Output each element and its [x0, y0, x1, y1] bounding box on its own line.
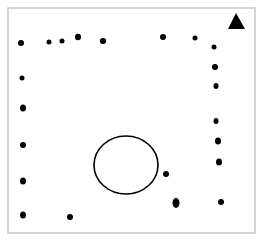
dot-marker — [20, 105, 26, 112]
dot-marker — [18, 40, 24, 46]
dot-marker — [20, 142, 26, 148]
triangle-marker — [228, 13, 245, 29]
dot-marker — [212, 64, 218, 70]
dot-marker — [214, 118, 219, 124]
dot-marker — [20, 178, 26, 185]
dot-marker — [20, 212, 26, 219]
circle-shape — [94, 136, 158, 194]
dot-marker — [212, 45, 217, 50]
dot-marker — [173, 198, 180, 208]
dot-marker — [20, 76, 25, 81]
dot-marker — [60, 39, 65, 44]
dot-marker — [163, 171, 169, 177]
dot-marker — [193, 36, 198, 41]
dot-marker — [75, 34, 81, 40]
dot-marker — [100, 38, 106, 44]
dot-marker — [67, 214, 73, 220]
dot-marker — [216, 159, 222, 166]
dots-group — [18, 34, 224, 220]
dot-marker — [215, 138, 221, 145]
dot-marker — [160, 34, 166, 40]
dot-marker — [214, 83, 219, 89]
dot-marker — [218, 199, 224, 205]
dot-marker — [47, 40, 52, 45]
sketch-canvas — [0, 0, 263, 243]
